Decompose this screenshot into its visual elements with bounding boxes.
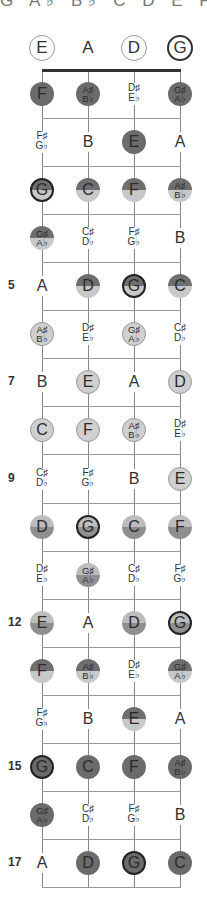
fret-note-label[interactable]: C♯D♭ — [76, 804, 100, 826]
fret-note-marker[interactable]: G — [30, 755, 54, 779]
fret-note-label[interactable]: D♯E♭ — [122, 660, 146, 682]
fret-line — [42, 743, 181, 744]
fret-number: 15 — [8, 759, 28, 773]
fret-line — [42, 647, 181, 648]
fret-line — [42, 551, 181, 552]
fret-number: 17 — [8, 855, 28, 869]
fret-note-label[interactable]: A — [168, 132, 192, 152]
fret-note-marker[interactable]: C — [168, 274, 192, 298]
fret-note-marker[interactable]: A♯B♭ — [76, 659, 100, 683]
fret-line — [42, 791, 181, 792]
fret-line — [42, 887, 181, 888]
fret-note-label[interactable]: D♯E♭ — [168, 419, 192, 441]
fret-note-label[interactable]: B — [168, 228, 192, 248]
fret-note-label[interactable]: D♯E♭ — [122, 83, 146, 105]
fret-note-marker[interactable]: F — [76, 418, 100, 442]
fret-note-marker[interactable]: A♯B♭ — [168, 178, 192, 202]
nut — [42, 69, 181, 72]
fret-note-label[interactable]: A — [168, 709, 192, 729]
fret-line — [42, 166, 181, 167]
fret-line — [42, 262, 181, 263]
fret-note-label[interactable]: C♯D♭ — [30, 468, 54, 490]
fret-note-label[interactable]: F♯G♭ — [168, 564, 192, 586]
fret-note-label[interactable]: D♯E♭ — [76, 323, 100, 345]
fret-number: 9 — [8, 471, 28, 485]
fret-note-marker[interactable]: G — [168, 611, 192, 635]
fret-line — [42, 214, 181, 215]
fret-note-marker[interactable]: C — [168, 851, 192, 875]
fret-note-marker[interactable]: A♯B♭ — [122, 418, 146, 442]
fret-note-marker[interactable]: C — [122, 515, 146, 539]
fret-note-marker[interactable]: E — [30, 611, 54, 635]
fret-note-marker[interactable]: D — [30, 515, 54, 539]
fret-note-marker[interactable]: G — [122, 851, 146, 875]
fret-note-label[interactable]: C♯D♭ — [168, 323, 192, 345]
fret-note-marker[interactable]: E — [76, 370, 100, 394]
fret-note-marker[interactable]: D — [76, 851, 100, 875]
fret-note-marker[interactable]: F — [122, 178, 146, 202]
fretboard-diagram: EADG579121517FA♯B♭D♯E♭G♯A♭F♯G♭BEAGCFA♯B♭… — [0, 0, 207, 912]
fret-note-label[interactable]: F♯G♭ — [30, 708, 54, 730]
fret-note-label[interactable]: C♯D♭ — [76, 227, 100, 249]
fret-line — [42, 118, 181, 119]
fret-note-marker[interactable]: C — [30, 418, 54, 442]
fret-line — [42, 454, 181, 455]
fret-number: 12 — [8, 615, 28, 629]
fret-line — [42, 406, 181, 407]
open-string-note[interactable]: A — [75, 35, 101, 61]
fret-note-label[interactable]: F♯G♭ — [30, 131, 54, 153]
fret-note-marker[interactable]: D — [122, 611, 146, 635]
fret-number: 7 — [8, 374, 28, 388]
fret-note-marker[interactable]: F — [30, 82, 54, 106]
fret-line — [42, 503, 181, 504]
fret-number: 5 — [8, 278, 28, 292]
fret-note-marker[interactable]: A♯B♭ — [76, 82, 100, 106]
fret-note-label[interactable]: A — [76, 613, 100, 633]
fret-note-marker[interactable]: A♯B♭ — [30, 322, 54, 346]
open-string-note[interactable]: G — [167, 35, 193, 61]
open-string-note[interactable]: E — [29, 35, 55, 61]
fret-note-marker[interactable]: D — [76, 274, 100, 298]
fret-note-marker[interactable]: E — [122, 707, 146, 731]
fret-note-label[interactable]: D♯E♭ — [30, 564, 54, 586]
fret-note-label[interactable]: F♯G♭ — [122, 804, 146, 826]
fret-note-label[interactable]: A — [30, 276, 54, 296]
fret-note-marker[interactable]: E — [168, 467, 192, 491]
fret-note-label[interactable]: F♯G♭ — [76, 468, 100, 490]
fret-note-label[interactable]: B — [76, 132, 100, 152]
fret-line — [42, 695, 181, 696]
open-string-note[interactable]: D — [121, 35, 147, 61]
fret-note-marker[interactable]: C — [76, 178, 100, 202]
fret-note-marker[interactable]: F — [30, 659, 54, 683]
fret-note-marker[interactable]: G♯A♭ — [168, 82, 192, 106]
fret-note-label[interactable]: B — [122, 469, 146, 489]
fret-line — [42, 358, 181, 359]
fret-note-marker[interactable]: G♯A♭ — [30, 226, 54, 250]
fret-note-label[interactable]: C♯D♭ — [122, 564, 146, 586]
fret-note-marker[interactable]: F — [168, 515, 192, 539]
fret-note-marker[interactable]: E — [122, 130, 146, 154]
fret-line — [42, 310, 181, 311]
fret-note-marker[interactable]: C — [76, 755, 100, 779]
fret-note-label[interactable]: A — [122, 372, 146, 392]
fret-note-marker[interactable]: G — [122, 274, 146, 298]
fret-note-label[interactable]: B — [76, 709, 100, 729]
fret-note-marker[interactable]: D — [168, 370, 192, 394]
fret-note-marker[interactable]: G — [30, 178, 54, 202]
fret-note-label[interactable]: B — [168, 805, 192, 825]
fret-line — [42, 839, 181, 840]
fret-line — [42, 599, 181, 600]
fret-note-marker[interactable]: G — [76, 515, 100, 539]
fret-note-label[interactable]: F♯G♭ — [122, 227, 146, 249]
fret-note-marker[interactable]: G♯A♭ — [76, 563, 100, 587]
fret-note-marker[interactable]: G♯A♭ — [30, 803, 54, 827]
fret-note-marker[interactable]: G♯A♭ — [168, 659, 192, 683]
fret-note-marker[interactable]: A♯B♭ — [168, 755, 192, 779]
fret-note-label[interactable]: A — [30, 853, 54, 873]
fret-note-marker[interactable]: F — [122, 755, 146, 779]
fret-note-marker[interactable]: G♯A♭ — [122, 322, 146, 346]
fret-note-label[interactable]: B — [30, 372, 54, 392]
